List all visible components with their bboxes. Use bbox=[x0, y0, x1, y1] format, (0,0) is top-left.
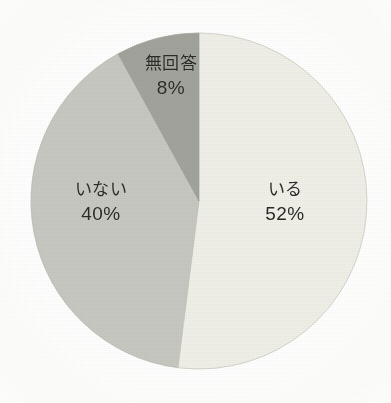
pie-label-inai: いない 40% bbox=[48, 180, 154, 225]
pie-label-mukaitou: 無回答 8% bbox=[118, 54, 224, 99]
pie-label-iru-name: いる bbox=[232, 180, 338, 201]
pie-label-mukaitou-name: 無回答 bbox=[118, 54, 224, 75]
pie-chart-figure: いる 52% いない 40% 無回答 8% bbox=[0, 0, 391, 403]
pie-label-inai-name: いない bbox=[48, 180, 154, 201]
pie-label-iru-value: 52% bbox=[232, 202, 338, 225]
pie-label-iru: いる 52% bbox=[232, 180, 338, 225]
pie-label-inai-value: 40% bbox=[48, 202, 154, 225]
pie-label-mukaitou-value: 8% bbox=[118, 76, 224, 99]
